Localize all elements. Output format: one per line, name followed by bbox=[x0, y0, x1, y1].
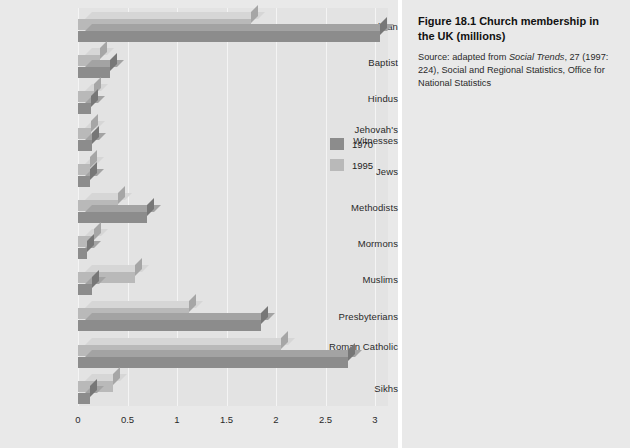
bar-1970-jews bbox=[78, 176, 90, 187]
chart-panel: AnglicanBaptistHindusJehovah's Witnesses… bbox=[0, 0, 398, 448]
category-label-mormons: Mormons bbox=[324, 238, 398, 249]
bar-front-face bbox=[78, 212, 147, 223]
x-tick-label-1: 1 bbox=[174, 414, 179, 425]
figure-caption-title: Figure 18.1 Church membership in the UK … bbox=[418, 14, 614, 44]
x-tick-label-2.5: 2.5 bbox=[319, 414, 332, 425]
x-tick-label-1.5: 1.5 bbox=[220, 414, 233, 425]
source-prefix: Source: adapted from bbox=[418, 52, 509, 62]
legend-label-1995: 1995 bbox=[352, 160, 373, 171]
caption-panel: Figure 18.1 Church membership in the UK … bbox=[402, 0, 630, 448]
legend-item-1995: 1995 bbox=[330, 159, 400, 171]
legend-label-1970: 1970 bbox=[352, 139, 373, 150]
legend-swatch-1995 bbox=[330, 159, 344, 171]
category-label-baptist: Baptist bbox=[324, 57, 398, 68]
bar-front-face bbox=[78, 284, 92, 295]
legend-item-1970: 1970 bbox=[330, 138, 400, 150]
bar-1970-anglican bbox=[78, 31, 380, 42]
bar-top-face bbox=[85, 301, 203, 308]
x-tick-label-3: 3 bbox=[372, 414, 377, 425]
bar-top-face bbox=[85, 24, 394, 31]
figure-caption-source: Source: adapted from Social Trends, 27 (… bbox=[418, 51, 614, 90]
bar-top-face bbox=[85, 350, 362, 357]
x-tick-label-0.5: 0.5 bbox=[121, 414, 134, 425]
bar-top-face bbox=[85, 12, 265, 19]
bar-front-face bbox=[78, 248, 87, 259]
category-label-hindus: Hindus bbox=[324, 93, 398, 104]
category-label-methodists: Methodists bbox=[324, 202, 398, 213]
bar-front-face bbox=[78, 140, 92, 151]
bar-1970-methodists bbox=[78, 212, 147, 223]
x-tick-label-2: 2 bbox=[273, 414, 278, 425]
bar-1970-baptist bbox=[78, 67, 110, 78]
bar-1970-jehovah-s-witnesses bbox=[78, 140, 92, 151]
bar-front-face bbox=[78, 393, 90, 404]
bar-front-face bbox=[78, 357, 348, 368]
bar-front-face bbox=[78, 320, 261, 331]
bar-1970-mormons bbox=[78, 248, 87, 259]
bar-top-face bbox=[85, 374, 127, 381]
bar-front-face bbox=[78, 103, 91, 114]
bar-top-face bbox=[85, 313, 275, 320]
chart-legend: 1970 1995 bbox=[330, 138, 400, 180]
bar-front-face bbox=[78, 176, 90, 187]
bar-top-face bbox=[85, 338, 295, 345]
figure-container: AnglicanBaptistHindusJehovah's Witnesses… bbox=[0, 0, 630, 448]
category-label-sikhs: Sikhs bbox=[324, 383, 398, 394]
bar-front-face bbox=[78, 67, 110, 78]
bar-front-face bbox=[78, 31, 380, 42]
bar-1970-roman-catholic bbox=[78, 357, 348, 368]
bar-1970-sikhs bbox=[78, 393, 90, 404]
source-publication: Social Trends bbox=[509, 52, 565, 62]
x-axis: 00.511.522.53 bbox=[0, 414, 398, 434]
bar-1970-hindus bbox=[78, 103, 91, 114]
legend-swatch-1970 bbox=[330, 138, 344, 150]
bar-1970-muslims bbox=[78, 284, 92, 295]
category-label-muslims: Muslims bbox=[324, 274, 398, 285]
bar-1970-presbyterians bbox=[78, 320, 261, 331]
category-label-presbyterians: Presbyterians bbox=[324, 311, 398, 322]
x-tick-label-0: 0 bbox=[75, 414, 80, 425]
